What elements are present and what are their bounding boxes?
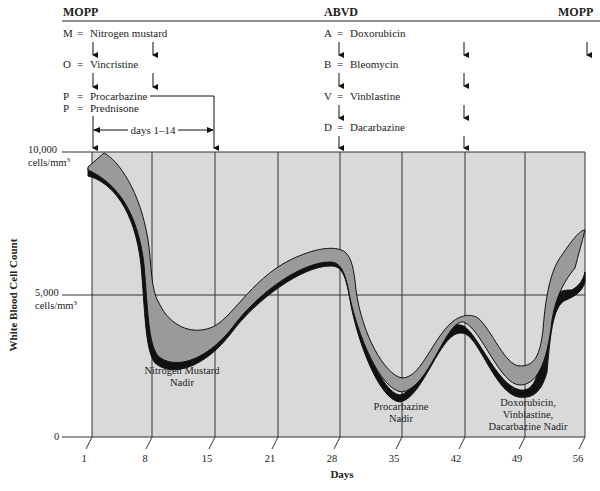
x-tick-1: 1 [81,453,86,464]
mopp-letter-o: O [63,58,71,70]
x-tick-8: 8 [142,453,147,464]
equals-sign: = [337,58,343,70]
equals-sign: = [337,121,343,133]
x-tick-21: 21 [265,453,276,464]
days-range-label: days 1–14 [131,124,176,136]
procarbazine-bracket-arrow [150,96,214,148]
drug-nitrogen-mustard: Nitrogen mustard [90,27,168,39]
x-tick-marks [86,437,585,449]
y-axis-label: White Blood Cell Count [7,238,19,351]
y-tick-10000: 10,000 [28,144,57,155]
drug-vinblastine: Vinblastine [350,90,400,102]
regimen-title-mopp: MOPP [63,5,98,19]
drug-prednisone: Prednisone [90,102,139,114]
x-tick-56: 56 [573,453,584,464]
y-tick-0: 0 [54,431,59,442]
x-tick-15: 15 [202,453,213,464]
procarbazine-nadir-line2: Nadir [389,413,413,424]
nitrogen-mustard-nadir-line1: Nitrogen Mustard [145,365,221,376]
drug-procarbazine: Procarbazine [90,90,148,102]
x-tick-labels: 1 8 15 21 28 35 42 49 56 Days [81,453,583,480]
x-tick-42: 42 [451,453,462,464]
mopp-letter-m: M [63,27,73,39]
y-tick-5000-unit: cells/mm3 [35,299,78,311]
nitrogen-mustard-nadir-line2: Nadir [170,377,194,388]
equals-sign: = [337,90,343,102]
equals-sign: = [77,102,83,114]
equals-sign: = [77,27,83,39]
abvd-drug-list: A = Doxorubicin B = Bleomycin V = Vinbla… [324,27,406,133]
wbc-chart: MOPP ABVD MOPP M = Nitrogen mustard O = … [0,0,600,491]
procarbazine-nadir-line1: Procarbazine [374,401,429,412]
x-tick-49: 49 [512,453,523,464]
drug-bleomycin: Bleomycin [350,58,399,70]
regimen-title-mopp-restart: MOPP [558,5,593,19]
abvd-letter-d: D [324,121,332,133]
equals-sign: = [77,90,83,102]
abvd-letter-b: B [324,58,331,70]
y-tick-10000-unit: cells/mm3 [28,156,71,168]
drug-vincristine: Vincristine [90,58,138,70]
abvd-nadir-line3: Dacarbazine Nadir [489,421,568,432]
x-tick-35: 35 [389,453,400,464]
mopp-letter-p1: P [63,90,69,102]
plot-area: Nitrogen Mustard Nadir Procarbazine Nadi… [62,152,585,437]
regimen-title-abvd: ABVD [324,5,358,19]
abvd-nadir-line2: Vinblastine, [503,409,553,420]
y-axis: 10,000 cells/mm3 5,000 cells/mm3 0 White… [7,144,78,442]
x-axis-label: Days [330,468,354,480]
equals-sign: = [77,58,83,70]
abvd-nadir-line1: Doxorubicin, [500,397,556,408]
drug-dacarbazine: Dacarbazine [350,121,405,133]
mopp-letter-p2: P [63,102,69,114]
x-tick-28: 28 [327,453,338,464]
mopp-drug-list: M = Nitrogen mustard O = Vincristine P =… [63,27,168,114]
drug-doxorubicin: Doxorubicin [350,27,406,39]
abvd-letter-a: A [324,27,332,39]
abvd-letter-v: V [324,90,332,102]
y-tick-5000: 5,000 [35,287,59,298]
equals-sign: = [337,27,343,39]
